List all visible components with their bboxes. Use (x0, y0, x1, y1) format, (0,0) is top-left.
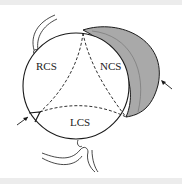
label-ncs: NCS (100, 60, 121, 72)
right-arrowhead (161, 80, 166, 85)
label-lcs: LCS (70, 116, 90, 128)
label-rcs: RCS (36, 60, 57, 72)
left-coronary-artery (42, 140, 98, 172)
aortic-valve-diagram: RCS NCS LCS (0, 0, 182, 184)
